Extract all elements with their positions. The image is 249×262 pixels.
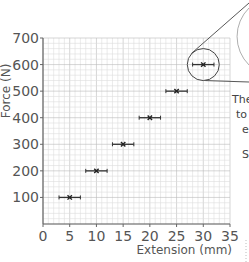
x-tick-label: 30 xyxy=(194,228,212,244)
y-tick-label: 100 xyxy=(12,189,39,205)
x-tick-label: 0 xyxy=(39,228,48,244)
x-tick-label: 35 xyxy=(221,228,239,244)
y-axis-title: Force (N) xyxy=(0,64,13,119)
side-text: ea xyxy=(242,123,249,136)
y-tick-label: 700 xyxy=(12,30,39,46)
y-tick-label: 400 xyxy=(12,110,39,126)
y-tick-label: 600 xyxy=(12,57,39,73)
x-tick-label: 20 xyxy=(141,228,159,244)
x-tick-label: 10 xyxy=(88,228,106,244)
y-tick-label: 500 xyxy=(12,83,39,99)
x-tick-label: 15 xyxy=(114,228,132,244)
side-text: The xyxy=(231,93,249,106)
x-axis-title: Extension (mm) xyxy=(137,243,232,257)
side-text: to xyxy=(236,108,247,121)
x-tick-label: 5 xyxy=(65,228,74,244)
side-text: S xyxy=(242,148,249,161)
x-tick-label: 25 xyxy=(168,228,186,244)
y-tick-label: 300 xyxy=(12,136,39,152)
zoom-bubble-edge xyxy=(237,8,249,65)
y-tick-label: 200 xyxy=(12,163,39,179)
callout-line xyxy=(191,3,249,54)
force-extension-chart: 05101520253035100200300400500600700Exten… xyxy=(0,0,249,262)
